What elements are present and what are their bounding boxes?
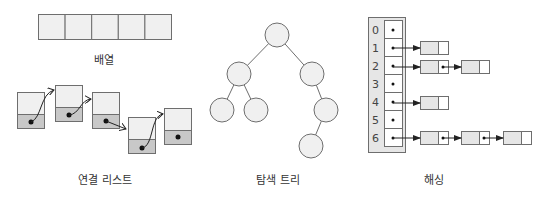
tree-diagram xyxy=(210,23,338,158)
data-structures-diagram: 012 345 6 xyxy=(0,0,547,198)
hash-table-diagram: 012 345 6 xyxy=(369,18,532,153)
svg-text:1: 1 xyxy=(372,42,379,55)
svg-text:6: 6 xyxy=(372,132,379,145)
svg-text:0: 0 xyxy=(372,24,379,37)
svg-text:2: 2 xyxy=(372,60,379,73)
svg-text:4: 4 xyxy=(372,96,379,109)
tree-label: 탐색 트리 xyxy=(256,171,300,187)
array-diagram xyxy=(39,15,172,40)
svg-text:3: 3 xyxy=(372,78,379,91)
svg-text:5: 5 xyxy=(372,114,379,127)
hashing-label: 해싱 xyxy=(424,171,444,187)
linked-list-label: 연결 리스트 xyxy=(78,171,132,187)
array-label: 배열 xyxy=(94,51,114,67)
